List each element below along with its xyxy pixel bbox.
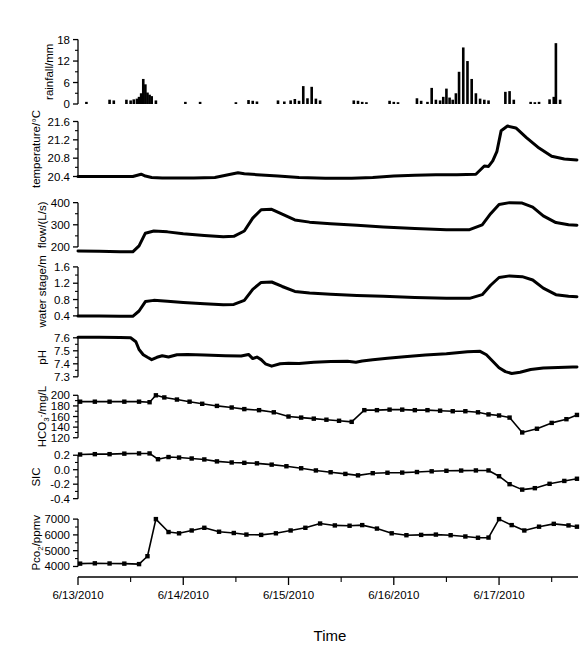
- y-tick-label: 0: [64, 98, 70, 110]
- y-tick-label: 300: [51, 219, 70, 231]
- y-axis-label: rainfall/mm: [43, 44, 55, 100]
- y-tick-label: 0.0: [54, 464, 70, 476]
- y-tick-label: 120: [51, 432, 70, 444]
- rainfall-bar: [392, 102, 395, 104]
- data-marker: [137, 399, 141, 403]
- data-marker: [156, 457, 160, 461]
- data-marker: [552, 522, 556, 526]
- data-marker: [362, 408, 366, 412]
- rainfall-bar: [442, 97, 445, 104]
- data-marker: [122, 561, 126, 565]
- data-marker: [137, 451, 141, 455]
- data-marker: [147, 451, 151, 455]
- rainfall-bar: [302, 86, 305, 104]
- data-marker: [147, 400, 151, 404]
- data-marker: [375, 526, 379, 530]
- data-marker: [78, 452, 82, 456]
- y-tick-label: 6000: [44, 529, 70, 541]
- y-tick-label: 0.8: [54, 294, 70, 306]
- data-marker: [389, 531, 393, 535]
- data-marker: [385, 471, 389, 475]
- rainfall-bar: [435, 100, 438, 104]
- rainfall-bar: [559, 100, 562, 104]
- data-marker: [400, 470, 404, 474]
- y-tick-label: 20.8: [48, 152, 70, 164]
- rainfall-bar: [129, 100, 132, 104]
- rainfall-bar: [306, 98, 309, 104]
- data-marker: [564, 417, 568, 421]
- rainfall-bar: [294, 99, 297, 104]
- data-marker: [177, 531, 181, 535]
- rainfall-bar: [125, 100, 128, 104]
- y-axis-label: Pco2/ppmv: [30, 515, 45, 571]
- y-tick-label: 6: [64, 77, 70, 89]
- data-marker: [232, 531, 236, 535]
- data-marker: [202, 457, 206, 461]
- rainfall-bar: [416, 98, 419, 104]
- rainfall-bar: [352, 100, 355, 104]
- rainfall-bar: [487, 100, 490, 104]
- data-marker: [497, 413, 501, 417]
- data-marker: [434, 532, 438, 536]
- y-tick-label: 0.4: [54, 310, 71, 322]
- y-tick-label: 4000: [44, 560, 70, 572]
- rainfall-bar: [529, 102, 532, 104]
- data-marker: [154, 393, 158, 397]
- data-marker: [497, 517, 501, 521]
- y-tick-label: 21.6: [48, 116, 70, 128]
- data-marker: [547, 482, 551, 486]
- data-marker: [314, 468, 318, 472]
- data-marker: [486, 412, 490, 416]
- data-marker: [476, 410, 480, 414]
- data-marker: [509, 523, 513, 527]
- rainfall-bar: [361, 102, 364, 104]
- rainfall-bar: [315, 99, 318, 104]
- data-line: [80, 519, 577, 564]
- rainfall-bar: [430, 88, 433, 104]
- data-marker: [476, 536, 480, 540]
- data-marker: [459, 468, 463, 472]
- y-axis-label: SIC: [30, 467, 42, 486]
- data-marker: [343, 472, 347, 476]
- data-marker: [78, 561, 82, 565]
- y-axis-label: temperature/°C: [30, 110, 42, 188]
- data-marker: [274, 531, 278, 535]
- y-tick-label: 140: [51, 421, 70, 433]
- data-marker: [318, 521, 322, 525]
- figure-root: 061218rainfall/mm20.420.821.221.6tempera…: [0, 0, 584, 653]
- data-marker: [347, 524, 351, 528]
- rainfall-bar: [479, 99, 482, 104]
- data-marker: [93, 399, 97, 403]
- data-marker: [107, 561, 111, 565]
- data-marker: [259, 533, 263, 537]
- data-marker: [284, 464, 288, 468]
- y-tick-label: 7.4: [54, 358, 71, 370]
- data-marker: [486, 468, 490, 472]
- panel-pco2-ppmv: 4000500060007000Pco2/ppmv: [30, 513, 580, 572]
- rainfall-bar: [504, 92, 507, 104]
- data-marker: [448, 533, 452, 537]
- panel-water-stage-m: 0.40.81.21.6water stage/m: [36, 255, 577, 328]
- data-marker: [575, 413, 579, 417]
- y-tick-label: 7.3: [54, 371, 70, 383]
- rainfall-bar: [247, 100, 250, 104]
- rainfall-bar: [283, 101, 286, 104]
- data-marker: [93, 452, 97, 456]
- data-marker: [242, 461, 246, 465]
- data-marker: [189, 456, 193, 460]
- data-marker: [533, 486, 537, 490]
- y-tick-label: 180: [51, 400, 70, 412]
- y-tick-label: 200: [51, 389, 70, 401]
- rainfall-bar: [538, 102, 541, 104]
- rainfall-bar: [483, 100, 486, 104]
- data-marker: [137, 562, 141, 566]
- rainfall-bar: [466, 61, 469, 104]
- panel-ph: 7.37.47.57.6pH: [36, 332, 577, 383]
- data-marker: [444, 469, 448, 473]
- rainfall-bar: [85, 102, 88, 104]
- data-marker: [349, 420, 353, 424]
- data-marker: [175, 397, 179, 401]
- rainfall-bar: [132, 99, 135, 104]
- x-axis-title: Time: [314, 627, 347, 644]
- data-marker: [375, 408, 379, 412]
